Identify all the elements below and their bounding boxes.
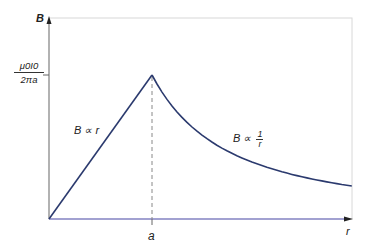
- chart-canvas: [0, 0, 369, 252]
- fraction-denominator: r: [256, 140, 263, 149]
- y-axis-arrow-icon: [47, 16, 52, 24]
- outside-relation-fraction: 1 r: [256, 130, 263, 149]
- outside-relation-label: B ∝ 1 r: [233, 130, 263, 149]
- inside-relation-label: B ∝ r: [74, 124, 99, 137]
- plot-frame: [49, 18, 352, 219]
- outside-relation-prefix: B ∝: [233, 132, 251, 144]
- y-axis-label: B: [36, 12, 44, 24]
- x-axis-label: r: [346, 225, 350, 237]
- x-tick-label-a: a: [148, 229, 155, 243]
- y-tick-numerator: μ0I0: [14, 60, 44, 73]
- y-tick-denominator: 2πa: [14, 73, 44, 85]
- curve-inside: [49, 75, 152, 219]
- y-tick-label: μ0I0 2πa: [14, 60, 44, 85]
